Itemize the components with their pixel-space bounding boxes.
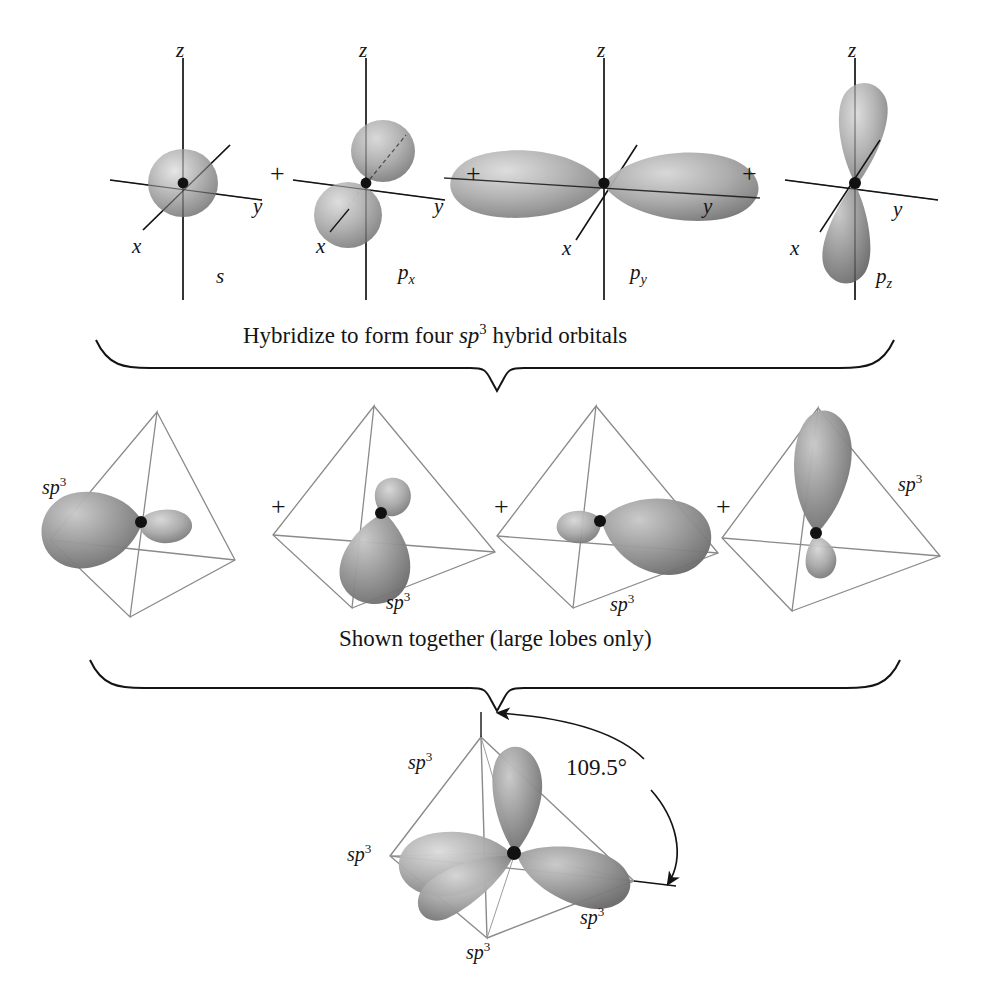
axis-label-y-s: y (253, 196, 262, 217)
sp3-hybridization-figure: z y x s + z y x px + z y x py + z y x pz… (0, 0, 983, 985)
axis-label-z-px: z (359, 40, 367, 61)
operator-plus-4: + (271, 494, 286, 520)
axis-label-z-s: z (176, 40, 184, 61)
figure-text-layer: z y x s + z y x px + z y x py + z y x pz… (0, 0, 983, 985)
axis-label-x-px: x (316, 236, 325, 257)
hybrid-label-2: sp3 (386, 590, 410, 612)
axis-label-y-pz: y (893, 199, 902, 220)
brace-shown-together-label: Shown together (large lobes only) (339, 627, 652, 650)
operator-plus-1: + (270, 161, 285, 187)
operator-plus-5: + (494, 494, 509, 520)
operator-plus-2: + (466, 161, 481, 187)
bond-angle-label: 109.5° (566, 756, 627, 779)
axis-label-z-py: z (597, 40, 605, 61)
axis-label-z-pz: z (848, 40, 856, 61)
combined-label-1: sp3 (408, 750, 432, 772)
combined-label-3: sp3 (466, 940, 490, 962)
axis-label-y-px: y (434, 196, 443, 217)
hybrid-label-4: sp3 (898, 472, 922, 494)
axis-label-y-py: y (703, 196, 712, 217)
orbital-label-pz: pz (876, 266, 892, 290)
brace-hybridize-label: Hybridize to form four sp3 hybrid orbita… (243, 322, 627, 347)
combined-label-4: sp3 (580, 905, 604, 927)
axis-label-x-s: x (132, 236, 141, 257)
combined-label-2: sp3 (347, 842, 371, 864)
hybrid-label-3: sp3 (610, 592, 634, 614)
orbital-label-py: py (630, 262, 647, 286)
hybrid-label-1: sp3 (42, 475, 66, 497)
operator-plus-3: + (742, 161, 757, 187)
orbital-label-s: s (216, 266, 224, 287)
axis-label-x-pz: x (790, 238, 799, 259)
operator-plus-6: + (716, 494, 731, 520)
orbital-label-px: px (398, 262, 415, 286)
axis-label-x-py: x (562, 238, 571, 259)
